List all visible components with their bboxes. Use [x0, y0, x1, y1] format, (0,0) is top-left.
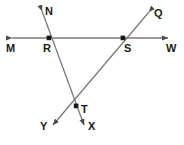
line-qy: [53, 12, 149, 125]
point-r: [47, 36, 52, 41]
point-label-q: Q: [154, 8, 163, 19]
point-label-m: M: [6, 43, 15, 54]
point-label-y: Y: [40, 121, 47, 132]
point-label-x: X: [88, 121, 95, 132]
point-label-n: N: [45, 6, 53, 17]
point-label-w: W: [166, 43, 176, 54]
point-label-s: S: [124, 43, 131, 54]
point-label-t: T: [81, 104, 88, 115]
point-label-r: R: [43, 43, 51, 54]
point-s: [121, 36, 126, 41]
point-t: [74, 104, 79, 109]
geometry-figure: N Q M R S W T Y X: [0, 0, 184, 145]
